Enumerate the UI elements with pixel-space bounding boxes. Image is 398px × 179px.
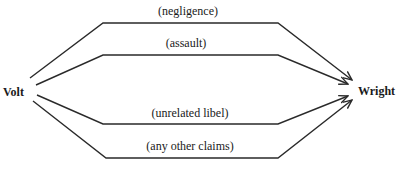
edge-label-unrelated-libel: (unrelated libel): [152, 106, 229, 121]
edge-assault: [36, 55, 348, 85]
edge-label-assault: (assault): [166, 36, 207, 51]
node-wright: Wright: [358, 84, 395, 99]
edge-negligence: [30, 23, 352, 80]
node-volt: Volt: [3, 85, 24, 100]
edge-label-negligence: (negligence): [158, 4, 218, 19]
edge-label-any-other-claims: (any other claims): [146, 139, 233, 154]
